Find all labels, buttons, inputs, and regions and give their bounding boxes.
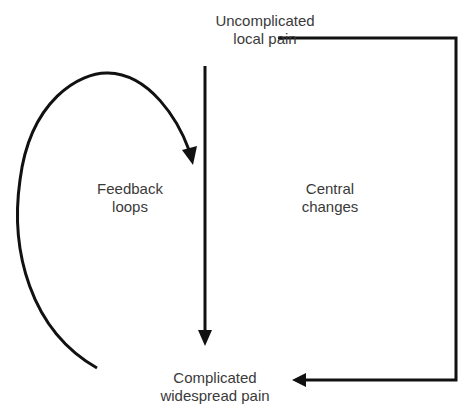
node-uncomplicated-local-pain: Uncomplicated local pain — [190, 12, 340, 48]
node-bottom-line2: widespread pain — [140, 387, 290, 405]
diagram: Uncomplicated local pain Complicated wid… — [0, 0, 468, 414]
diagram-arrows — [0, 0, 468, 414]
feedback-line1: Feedback — [90, 180, 170, 198]
central-line2: changes — [290, 198, 370, 216]
node-top-line2: local pain — [190, 30, 340, 48]
label-central-changes: Central changes — [290, 180, 370, 216]
label-feedback-loops: Feedback loops — [90, 180, 170, 216]
central-line1: Central — [290, 180, 370, 198]
feedback-loop-arrow — [18, 73, 197, 368]
feedback-line2: loops — [90, 198, 170, 216]
direct-progression-arrow — [198, 66, 212, 346]
node-bottom-line1: Complicated — [140, 369, 290, 387]
node-complicated-widespread-pain: Complicated widespread pain — [140, 369, 290, 405]
node-top-line1: Uncomplicated — [190, 12, 340, 30]
